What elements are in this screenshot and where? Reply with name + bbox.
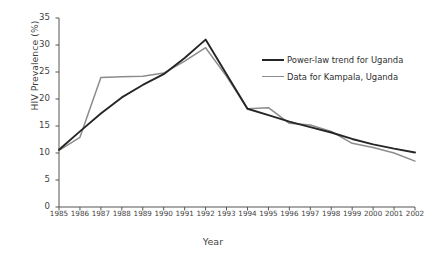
legend-item[interactable]: Power-law trend for Uganda bbox=[262, 54, 403, 65]
y-tick-label: 20 bbox=[28, 93, 50, 103]
y-tick-label: 30 bbox=[28, 39, 50, 49]
y-tick-label: 35 bbox=[28, 12, 50, 22]
legend-swatch-icon bbox=[262, 59, 284, 61]
y-tick-label: 15 bbox=[28, 120, 50, 130]
legend-label: Data for Kampala, Uganda bbox=[287, 72, 398, 82]
legend-label: Power-law trend for Uganda bbox=[287, 55, 403, 65]
y-tick-label: 10 bbox=[28, 147, 50, 157]
chart-container: HIV Prevalence (%) Year 0510152025303519… bbox=[0, 0, 426, 261]
legend-item[interactable]: Data for Kampala, Uganda bbox=[262, 71, 398, 82]
x-tick-label: 2002 bbox=[402, 209, 426, 218]
y-tick-label: 5 bbox=[28, 174, 50, 184]
y-tick-label: 25 bbox=[28, 66, 50, 76]
plot-area bbox=[0, 0, 426, 261]
legend-swatch-icon bbox=[262, 76, 284, 77]
